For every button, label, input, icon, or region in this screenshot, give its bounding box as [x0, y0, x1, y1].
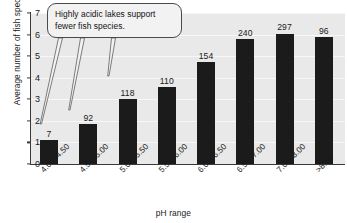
y-tick-mark: [27, 56, 31, 57]
y-tick-mark: [27, 99, 31, 100]
y-tick-label: 6: [0, 30, 46, 40]
callout-line-2: fewer fish species.: [55, 21, 174, 33]
bar-value-label: 92: [71, 113, 105, 123]
y-tick-label: 2: [0, 116, 46, 126]
bar-value-label: 96: [307, 26, 341, 36]
bar-value-label: 240: [228, 28, 262, 38]
y-tick-mark: [27, 12, 31, 13]
x-axis-title: pH range: [0, 208, 347, 218]
gridline: [31, 99, 345, 100]
y-tick-mark: [27, 34, 31, 35]
bar-value-label: 110: [150, 76, 184, 86]
bar-chart: Average number of fish species 01234567 …: [0, 0, 347, 223]
bar-value-label: 154: [189, 51, 223, 61]
y-tick-mark: [27, 163, 31, 164]
y-tick-mark: [27, 77, 31, 78]
y-tick-mark: [27, 142, 31, 143]
bar: [197, 62, 215, 164]
acidic-lakes-callout: Highly acidic lakes support fewer fish s…: [47, 3, 182, 38]
y-tick-label: 4: [0, 73, 46, 83]
bar-value-label: 118: [111, 88, 145, 98]
gridline: [31, 56, 345, 57]
bar: [236, 39, 254, 164]
callout-line-1: Highly acidic lakes support: [55, 9, 174, 21]
bar: [276, 34, 294, 165]
bar-value-label: 7: [32, 129, 66, 139]
y-tick-mark: [27, 120, 31, 121]
bar: [315, 37, 333, 164]
gridline: [31, 78, 345, 79]
x-axis-line: [30, 164, 345, 165]
y-tick-label: 7: [0, 8, 46, 18]
bar-value-label: 297: [268, 22, 302, 32]
y-tick-label: 3: [0, 94, 46, 104]
y-tick-label: 5: [0, 51, 46, 61]
